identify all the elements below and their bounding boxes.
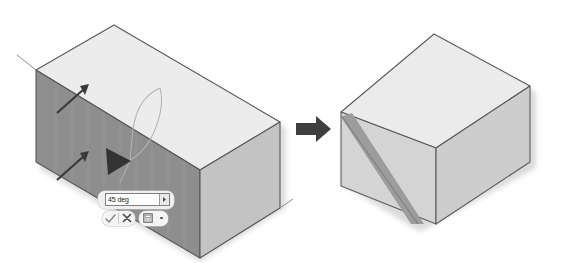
chevron-right-icon[interactable] bbox=[159, 194, 169, 205]
accept-button[interactable] bbox=[102, 211, 118, 226]
editor-toolbar[interactable] bbox=[102, 210, 168, 226]
arrow-right-icon bbox=[296, 116, 331, 142]
calculator-icon bbox=[143, 213, 153, 223]
angle-input-row[interactable]: 45 deg bbox=[105, 193, 170, 206]
extension-line-top-left bbox=[17, 55, 36, 70]
options-group[interactable] bbox=[139, 211, 168, 226]
draft-angle-editor[interactable]: 45 deg bbox=[98, 191, 174, 231]
illustration-canvas: 45 deg bbox=[0, 0, 571, 263]
check-icon bbox=[105, 214, 116, 223]
confirm-cancel-group[interactable] bbox=[102, 211, 135, 226]
dropdown-dot-icon[interactable] bbox=[156, 211, 167, 226]
draft-angle-input[interactable]: 45 deg bbox=[106, 194, 159, 205]
close-icon bbox=[122, 213, 132, 223]
cancel-button[interactable] bbox=[119, 211, 135, 226]
options-button[interactable] bbox=[140, 211, 156, 226]
after-box bbox=[341, 34, 536, 232]
cad-illustration bbox=[0, 0, 571, 263]
